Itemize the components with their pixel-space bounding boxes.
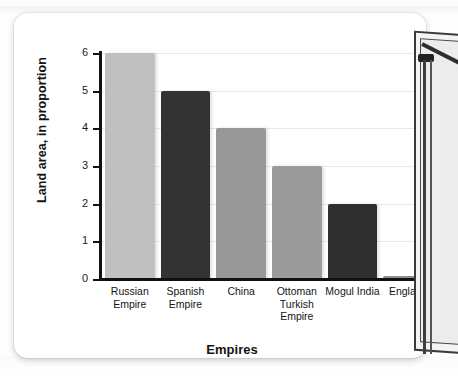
y-axis-tick-label: 6: [66, 47, 88, 58]
chart-card: Land area, in proportion Empires 0123456…: [14, 13, 426, 358]
y-axis-tick: [93, 204, 100, 206]
bar: [105, 53, 155, 279]
bar: [216, 128, 266, 279]
y-axis-tick: [93, 91, 100, 93]
x-axis-line: [99, 278, 444, 281]
y-axis-tick: [93, 241, 100, 243]
page-bottom-shadow: [0, 356, 458, 376]
y-axis-tick: [93, 53, 100, 55]
bar: [272, 166, 322, 279]
plot-area: [102, 53, 436, 279]
bar: [328, 204, 378, 279]
y-axis-tick: [93, 128, 100, 130]
y-axis-tick: [93, 166, 100, 168]
y-axis-tick-label: 1: [66, 235, 88, 246]
y-axis-tick-label: 0: [66, 273, 88, 284]
whiteboard-easel-icon: [404, 24, 458, 354]
y-axis-tick-label: 3: [66, 160, 88, 171]
y-axis-tick: [93, 279, 100, 281]
y-axis-title: Land area, in proportion: [35, 40, 49, 220]
bar: [161, 91, 211, 279]
y-axis-tick-label: 4: [66, 122, 88, 133]
x-axis-title: Empires: [142, 342, 322, 357]
y-axis-tick-label: 2: [66, 198, 88, 209]
y-axis-tick-label: 5: [66, 85, 88, 96]
